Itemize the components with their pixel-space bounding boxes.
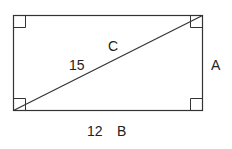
diagonal-line [14, 16, 203, 111]
diagonal-name-label: C [108, 38, 118, 54]
right-angle-marker-bottom-left [14, 99, 26, 111]
right-angle-marker-top-left [14, 16, 26, 28]
diagonal-length-label: 15 [69, 57, 85, 73]
rectangle-diagram: C 15 A 12 B [0, 0, 232, 149]
side-right-label: A [211, 57, 221, 73]
side-bottom-name-label: B [117, 123, 126, 139]
right-angle-marker-top-right [191, 16, 203, 28]
side-bottom-length-label: 12 [87, 123, 103, 139]
right-angle-marker-bottom-right [191, 99, 203, 111]
